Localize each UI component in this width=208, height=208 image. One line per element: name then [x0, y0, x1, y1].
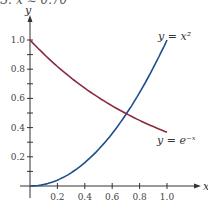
x-tick-label: 0.2: [50, 192, 64, 202]
series-line: [30, 40, 167, 186]
curve-label-x-squared: y = x²: [157, 30, 191, 43]
y-tick-label: 0.4: [11, 123, 26, 133]
x-axis-label: x: [203, 180, 208, 193]
x-tick-label: 1.0: [160, 192, 175, 202]
chart: yx0.20.40.60.81.00.20.40.60.81.0y = x²y …: [0, 0, 208, 208]
y-tick-label: 1.0: [11, 35, 26, 45]
x-axis-arrow-icon: [194, 184, 201, 189]
x-tick-label: 0.4: [78, 192, 93, 202]
y-tick-label: 0.8: [11, 64, 26, 74]
x-tick-label: 0.6: [105, 192, 120, 202]
curve-label-exp-neg-x: y = e⁻ˣ: [156, 134, 196, 147]
x-tick-label: 0.8: [132, 192, 147, 202]
series-line: [30, 40, 167, 132]
y-tick-label: 0.6: [11, 93, 26, 103]
y-axis-label: y: [24, 4, 32, 17]
y-tick-label: 0.2: [11, 152, 25, 162]
